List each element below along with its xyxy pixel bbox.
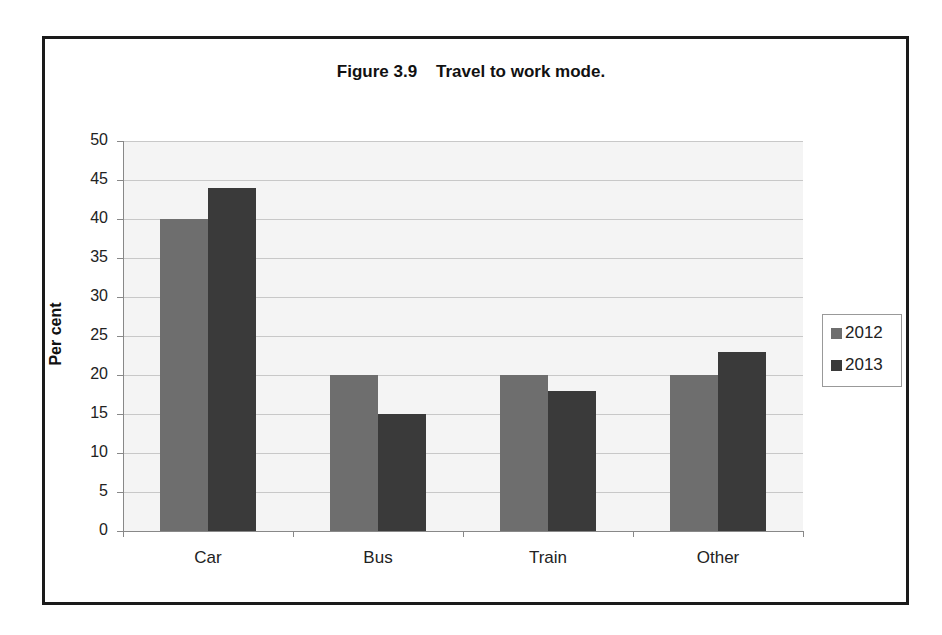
gridline: [123, 141, 803, 142]
y-tick: [117, 414, 123, 415]
y-tick-label: 0: [68, 521, 108, 539]
y-tick-label: 45: [68, 170, 108, 188]
y-tick: [117, 453, 123, 454]
y-tick-label: 50: [68, 131, 108, 149]
y-tick: [117, 258, 123, 259]
y-tick-label: 25: [68, 326, 108, 344]
x-tick-label: Bus: [328, 548, 428, 568]
y-axis: [123, 141, 124, 532]
legend-swatch-2013: [831, 360, 842, 371]
bar-bus-2012: [330, 375, 378, 531]
y-tick-label: 30: [68, 287, 108, 305]
bar-other-2013: [718, 352, 766, 531]
x-tick-label: Train: [498, 548, 598, 568]
x-tick: [123, 531, 124, 537]
chart-title: Figure 3.9 Travel to work mode.: [0, 62, 942, 82]
y-tick-label: 10: [68, 443, 108, 461]
legend-item-2013: 2013: [831, 355, 883, 375]
x-tick: [633, 531, 634, 537]
bar-other-2012: [670, 375, 718, 531]
y-tick: [117, 141, 123, 142]
bar-car-2012: [160, 219, 208, 531]
y-tick: [117, 219, 123, 220]
y-tick: [117, 492, 123, 493]
bar-train-2013: [548, 391, 596, 531]
legend-label-2013: 2013: [845, 355, 883, 375]
y-tick-label: 35: [68, 248, 108, 266]
y-axis-title: Per cent: [47, 274, 65, 394]
y-tick-label: 40: [68, 209, 108, 227]
y-tick-label: 20: [68, 365, 108, 383]
y-tick: [117, 336, 123, 337]
x-tick-label: Car: [158, 548, 258, 568]
bar-train-2012: [500, 375, 548, 531]
legend-swatch-2012: [831, 328, 842, 339]
x-tick: [803, 531, 804, 537]
legend-label-2012: 2012: [845, 323, 883, 343]
y-tick: [117, 375, 123, 376]
bar-car-2013: [208, 188, 256, 531]
x-tick-label: Other: [668, 548, 768, 568]
legend-item-2012: 2012: [831, 323, 883, 343]
y-tick: [117, 180, 123, 181]
x-tick: [463, 531, 464, 537]
y-tick: [117, 297, 123, 298]
legend: 2012 2013: [822, 314, 902, 387]
gridline: [123, 180, 803, 181]
x-tick: [293, 531, 294, 537]
y-tick-label: 5: [68, 482, 108, 500]
bar-bus-2013: [378, 414, 426, 531]
y-tick-label: 15: [68, 404, 108, 422]
